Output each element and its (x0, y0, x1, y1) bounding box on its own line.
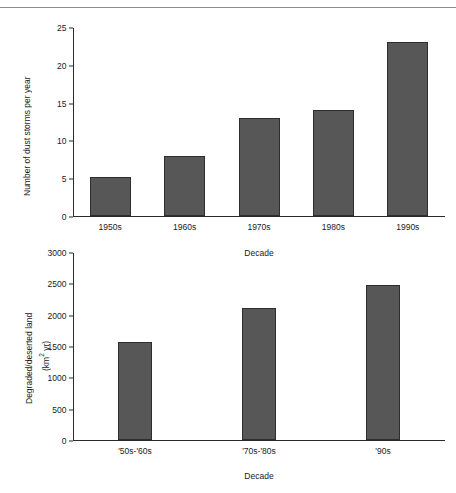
bar-dust-storms-0 (90, 177, 131, 216)
bar-degraded-land-2 (366, 285, 400, 440)
header-divider (0, 7, 456, 8)
unit-superscript: 2 (38, 353, 45, 357)
y-tick-mark (69, 441, 73, 442)
y-tick-label: 25 (57, 24, 66, 33)
y-tick-degraded-land-3000: 3000 (48, 249, 73, 258)
x-tick-label-degraded-land-2: '90s (375, 446, 390, 456)
y-tick-dust-storms-25: 25 (57, 24, 73, 33)
y-tick-dust-storms-5: 5 (62, 175, 73, 184)
y-tick-mark (69, 103, 73, 104)
y-axis-line-dust-storms (73, 28, 74, 217)
y-tick-label: 20 (57, 61, 66, 70)
y-axis-title-dust-storms: Number of dust storms per year (22, 48, 32, 224)
bar-degraded-land-1 (242, 308, 276, 440)
x-tick-label-dust-storms-1: 1960s (173, 222, 196, 232)
y-axis-line-degraded-land (73, 253, 74, 441)
x-tick-label-dust-storms-2: 1970s (247, 222, 270, 232)
y-tick-dust-storms-20: 20 (57, 61, 73, 70)
y-tick-label: 500 (52, 405, 66, 414)
y-tick-label: 2000 (48, 311, 67, 320)
y-tick-label: 2500 (48, 280, 67, 289)
y-tick-dust-storms-0: 0 (62, 213, 73, 222)
y-tick-dust-storms-10: 10 (57, 137, 73, 146)
y-tick-label: 0 (62, 437, 67, 446)
y-tick-label: 5 (62, 175, 67, 184)
x-tick-label-dust-storms-0: 1950s (99, 222, 122, 232)
y-tick-mark (69, 315, 73, 316)
y-axis-title-degraded-land-line1: Degraded/deserted land (24, 278, 34, 438)
y-tick-label: 15 (57, 99, 66, 108)
x-axis-title-degraded-land: Decade (73, 471, 445, 481)
y-tick-mark (69, 378, 73, 379)
y-tick-dust-storms-15: 15 (57, 99, 73, 108)
y-tick-label: 1000 (48, 374, 67, 383)
y-tick-mark (69, 284, 73, 285)
y-tick-degraded-land-1000: 1000 (48, 374, 73, 383)
y-tick-label: 0 (62, 213, 67, 222)
y-tick-mark (69, 217, 73, 218)
y-tick-mark (69, 409, 73, 410)
chart-degraded-land: Degraded/deserted land (km2 yr) 05001000… (0, 238, 456, 493)
figure-page: Number of dust storms per year 051015202… (0, 0, 456, 493)
y-tick-degraded-land-0: 0 (62, 437, 73, 446)
y-tick-mark (69, 253, 73, 254)
chart-dust-storms: Number of dust storms per year 051015202… (0, 14, 456, 254)
bar-dust-storms-3 (313, 110, 354, 216)
y-tick-label: 1500 (48, 343, 67, 352)
plot-area-degraded-land: 050010001500200025003000'50s-'60s'70s-'8… (73, 253, 445, 441)
x-axis-line-degraded-land (73, 440, 445, 441)
y-tick-degraded-land-1500: 1500 (48, 343, 73, 352)
bar-dust-storms-2 (239, 118, 280, 216)
x-axis-line-dust-storms (73, 216, 445, 217)
x-tick-label-degraded-land-1: '70s-'80s (242, 446, 276, 456)
bar-dust-storms-1 (164, 156, 205, 216)
plot-area-dust-storms: 05101520251950s1960s1970s1980s1990s (73, 28, 445, 217)
y-tick-mark (69, 65, 73, 66)
y-axis-title-degraded-land-unit: (km2 yr) (37, 316, 51, 396)
y-tick-label: 10 (57, 137, 66, 146)
y-tick-mark (69, 347, 73, 348)
x-tick-label-dust-storms-4: 1990s (396, 222, 419, 232)
y-tick-degraded-land-2500: 2500 (48, 280, 73, 289)
bar-dust-storms-4 (387, 42, 428, 216)
bar-degraded-land-0 (118, 342, 152, 440)
y-tick-mark (69, 141, 73, 142)
x-tick-label-degraded-land-0: '50s-'60s (118, 446, 152, 456)
y-tick-degraded-land-2000: 2000 (48, 311, 73, 320)
y-tick-mark (69, 179, 73, 180)
y-tick-degraded-land-500: 500 (52, 405, 73, 414)
y-tick-label: 3000 (48, 249, 67, 258)
y-tick-mark (69, 28, 73, 29)
unit-base: (km (41, 357, 51, 371)
x-tick-label-dust-storms-3: 1980s (322, 222, 345, 232)
